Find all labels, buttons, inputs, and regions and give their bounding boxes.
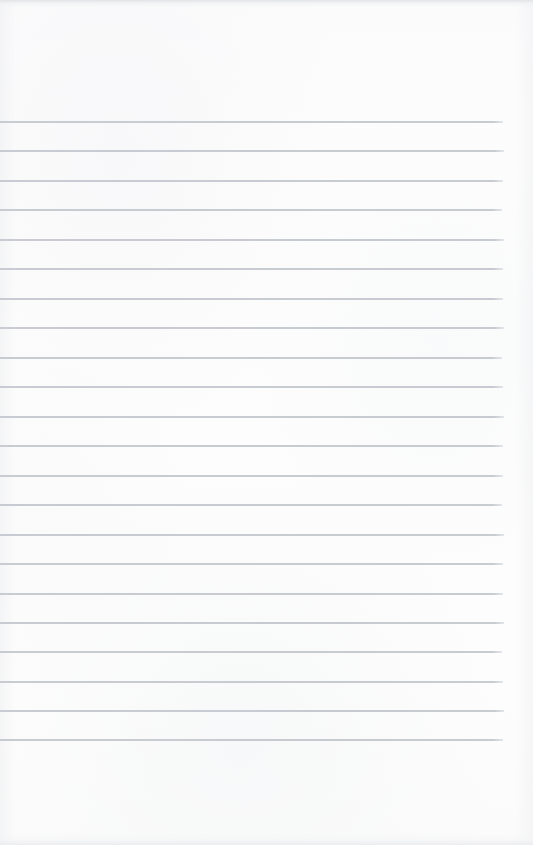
ruled-line-layer [0, 0, 533, 845]
ruled-line [0, 357, 502, 359]
ruled-line [0, 298, 503, 300]
ruled-line [0, 593, 503, 595]
notepad-page [0, 0, 533, 845]
ruled-line [0, 563, 503, 565]
ruled-line [0, 534, 504, 536]
ruled-line [0, 239, 504, 241]
ruled-line [0, 150, 504, 152]
ruled-line [0, 209, 502, 211]
ruled-line [0, 739, 503, 741]
ruled-line [0, 327, 504, 329]
ruled-line [0, 268, 503, 270]
ruled-line [0, 386, 503, 388]
ruled-line [0, 416, 504, 418]
ruled-line [0, 121, 503, 123]
ruled-line [0, 651, 502, 653]
ruled-line [0, 681, 503, 683]
ruled-line [0, 710, 504, 712]
ruled-line [0, 622, 504, 624]
ruled-line [0, 445, 503, 447]
ruled-line [0, 504, 502, 506]
ruled-line [0, 180, 503, 182]
ruled-line [0, 475, 503, 477]
